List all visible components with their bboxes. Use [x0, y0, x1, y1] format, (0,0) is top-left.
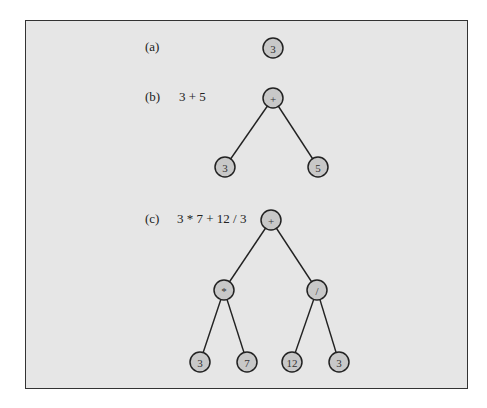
- expression-tree-diagram: (a)3(b)3 + 5+35(c)3 * 7 + 12 / 3+*/37123: [0, 0, 487, 408]
- node-value: 3: [222, 162, 228, 174]
- tree-edge: [317, 290, 339, 362]
- tree-node: 3: [215, 157, 235, 177]
- panel-b: (b)3 + 5+35: [145, 88, 328, 177]
- node-value: 12: [287, 357, 298, 369]
- node-value: 3: [197, 357, 203, 369]
- tree-node: 3: [329, 352, 349, 372]
- node-value: 3: [270, 43, 276, 55]
- node-value: 3: [336, 357, 342, 369]
- tree-node: 3: [190, 352, 210, 372]
- panel-label: (b): [145, 89, 160, 104]
- tree-node: /: [307, 280, 327, 300]
- panel-c: (c)3 * 7 + 12 / 3+*/37123: [145, 210, 349, 372]
- expression-text: 3 * 7 + 12 / 3: [177, 211, 246, 226]
- tree-node: 7: [237, 352, 257, 372]
- tree-edge: [225, 98, 273, 167]
- panel-label: (a): [145, 39, 159, 54]
- expression-text: 3 + 5: [179, 89, 206, 104]
- tree-node: 3: [263, 38, 283, 58]
- node-value: *: [221, 285, 227, 297]
- tree-node: 12: [282, 352, 302, 372]
- panel-a: (a)3: [145, 38, 283, 58]
- tree-edge: [224, 220, 271, 290]
- tree-node: +: [263, 88, 283, 108]
- node-value: 7: [244, 357, 250, 369]
- node-value: 5: [315, 162, 321, 174]
- node-value: +: [270, 93, 276, 105]
- tree-node: +: [261, 210, 281, 230]
- node-value: +: [268, 215, 274, 227]
- tree-edge: [271, 220, 317, 290]
- tree-edge: [292, 290, 317, 362]
- tree-node: 5: [308, 157, 328, 177]
- tree-edge: [224, 290, 247, 362]
- tree-node: *: [214, 280, 234, 300]
- tree-edge: [273, 98, 318, 167]
- tree-edge: [200, 290, 224, 362]
- panel-label: (c): [145, 211, 159, 226]
